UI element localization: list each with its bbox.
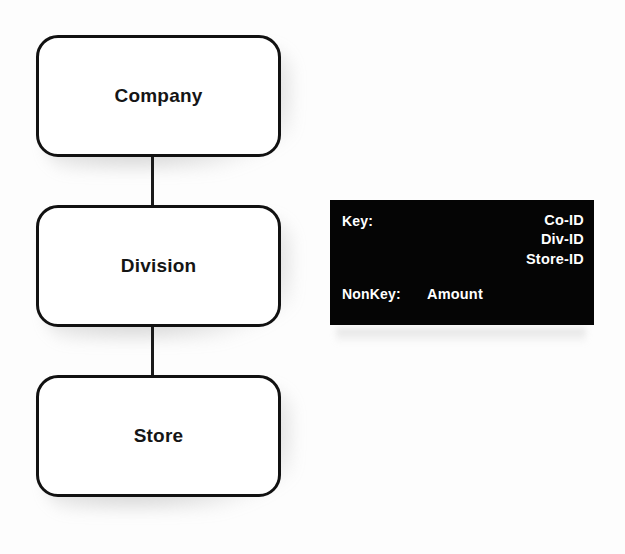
key-attribute-div-id: Div-ID (541, 230, 584, 249)
connector-company-division (151, 155, 154, 207)
nonkey-row: NonKey: Amount (342, 286, 483, 302)
key-box-shadow (336, 328, 586, 344)
diagram-canvas: Company Division Store Key: Co-ID Div-ID… (0, 0, 625, 554)
entity-box-store[interactable]: Store (36, 375, 281, 497)
key-attribute-store-id: Store-ID (526, 250, 584, 269)
key-caption: Key: (342, 213, 373, 229)
nonkey-value-amount: Amount (427, 286, 483, 302)
entity-box-division[interactable]: Division (36, 205, 281, 327)
nonkey-caption: NonKey: (342, 286, 401, 302)
key-legend-box: Key: Co-ID Div-ID Store-ID NonKey: Amoun… (330, 200, 594, 325)
connector-division-store (151, 325, 154, 377)
key-attribute-co-id: Co-ID (544, 211, 584, 230)
entity-label-store: Store (134, 425, 184, 447)
entity-label-company: Company (115, 85, 203, 107)
key-attribute-list: Co-ID Div-ID Store-ID (526, 211, 584, 269)
entity-label-division: Division (121, 255, 197, 277)
entity-box-company[interactable]: Company (36, 35, 281, 157)
